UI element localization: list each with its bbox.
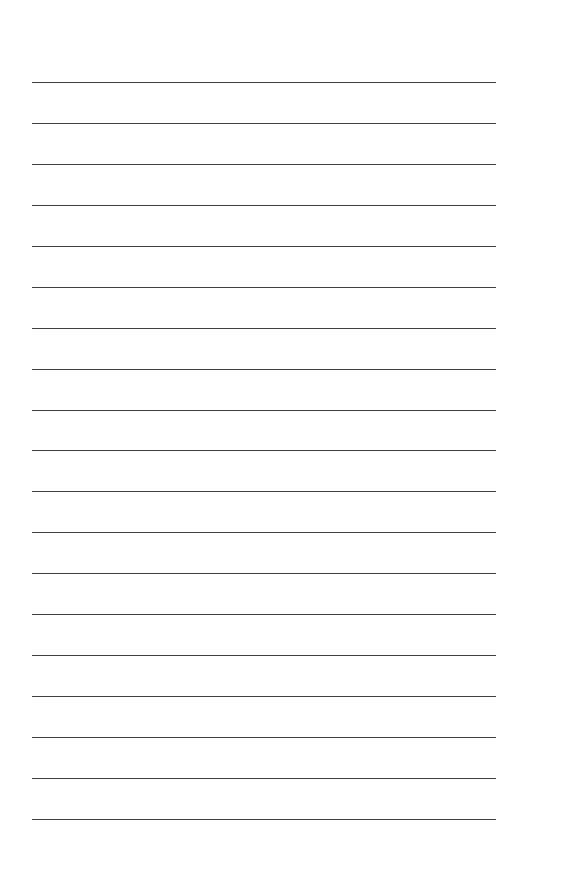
- ruled-line: [32, 532, 496, 533]
- ruled-line: [32, 573, 496, 574]
- ruled-line: [32, 164, 496, 165]
- ruled-line: [32, 246, 496, 247]
- ruled-line: [32, 205, 496, 206]
- ruled-line: [32, 369, 496, 370]
- ruled-line: [32, 614, 496, 615]
- ruled-line: [32, 778, 496, 779]
- ruled-line: [32, 819, 496, 820]
- ruled-line: [32, 328, 496, 329]
- ruled-line: [32, 410, 496, 411]
- ruled-line: [32, 696, 496, 697]
- ruled-line: [32, 737, 496, 738]
- ruled-line: [32, 491, 496, 492]
- ruled-line: [32, 655, 496, 656]
- ruled-line: [32, 287, 496, 288]
- ruled-line: [32, 82, 496, 83]
- lined-paper-page: [0, 0, 570, 883]
- ruled-line: [32, 123, 496, 124]
- ruled-line: [32, 450, 496, 451]
